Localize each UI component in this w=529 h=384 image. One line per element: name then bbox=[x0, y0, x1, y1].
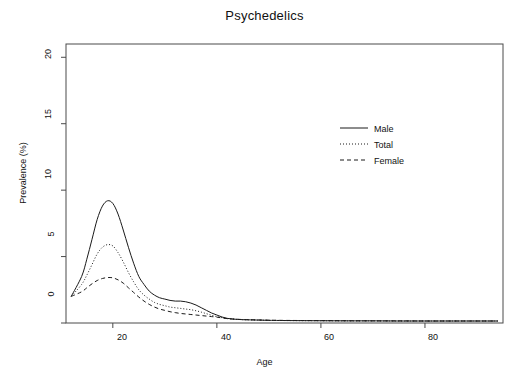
series-line-total bbox=[71, 245, 498, 321]
plot-area bbox=[0, 0, 529, 384]
plot-frame bbox=[66, 44, 503, 323]
chart-figure: Psychedelics Age Prevalence (%) 20 15 10… bbox=[0, 0, 529, 384]
data-series bbox=[71, 201, 498, 321]
series-line-male bbox=[71, 201, 498, 321]
legend-swatches bbox=[340, 128, 368, 160]
axis-ticks bbox=[61, 57, 425, 328]
